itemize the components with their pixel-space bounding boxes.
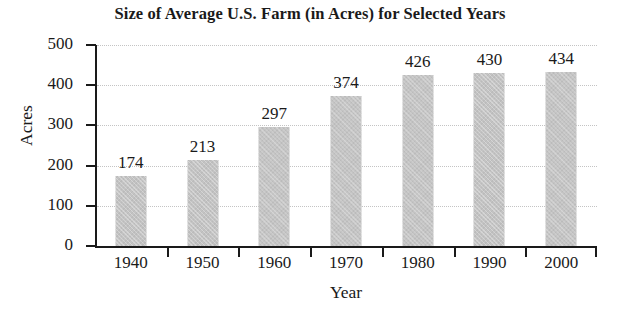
y-axis-tick: 100: [86, 205, 96, 207]
y-axis-tick-label: 0: [65, 235, 74, 255]
y-axis-tick-label: 200: [48, 155, 74, 175]
x-axis-tick: [167, 248, 169, 257]
x-axis-line: [95, 246, 597, 248]
x-axis-tick-label: 2000: [544, 253, 578, 273]
x-axis-tick-label: 1960: [257, 253, 291, 273]
bar: [331, 96, 362, 246]
x-axis-tick-label: 1980: [401, 253, 435, 273]
gridline: [97, 45, 597, 46]
y-axis-tick-label: 100: [48, 195, 74, 215]
y-axis-tick-label: 500: [48, 34, 74, 54]
bar-value-label: 434: [548, 49, 574, 69]
x-axis-tick: [525, 248, 527, 257]
bar-value-label: 213: [190, 137, 216, 157]
x-axis-tick-label: 1950: [186, 253, 220, 273]
y-axis-tick: 500: [86, 44, 96, 46]
bar: [187, 160, 218, 246]
farm-size-bar-chart: Size of Average U.S. Farm (in Acres) for…: [0, 0, 620, 328]
x-axis-tick: [454, 248, 456, 257]
x-axis-tick-label: 1990: [472, 253, 506, 273]
y-axis-tick: 300: [86, 124, 96, 126]
chart-title: Size of Average U.S. Farm (in Acres) for…: [0, 4, 620, 24]
y-axis-tick: 0: [86, 245, 96, 247]
x-axis-tick: [382, 248, 384, 257]
y-axis-title: Acres: [16, 105, 37, 146]
x-axis-tick: [238, 248, 240, 257]
y-axis-tick: 400: [86, 84, 96, 86]
bar-value-label: 297: [262, 104, 288, 124]
bar-value-label: 426: [405, 52, 431, 72]
bar-value-label: 374: [333, 73, 359, 93]
x-axis-title: Year: [95, 282, 597, 303]
bar: [115, 176, 146, 246]
y-axis-tick: 200: [86, 165, 96, 167]
bar: [546, 72, 577, 246]
plot-area: 0100200300400500 174213297374426430434 1…: [95, 45, 597, 248]
y-axis-tick-label: 400: [48, 74, 74, 94]
bar: [402, 75, 433, 246]
bar: [474, 73, 505, 246]
y-axis-tick-label: 300: [48, 114, 74, 134]
bar-value-label: 430: [477, 50, 503, 70]
x-axis-tick: [310, 248, 312, 257]
x-axis-tick-label: 1940: [114, 253, 148, 273]
x-axis-tick-label: 1970: [329, 253, 363, 273]
bar-value-label: 174: [118, 153, 144, 173]
y-axis-line: [95, 45, 97, 248]
bar: [259, 127, 290, 246]
x-axis-tick: [595, 248, 597, 257]
